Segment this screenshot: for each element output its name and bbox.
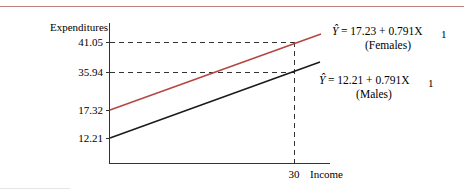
males-label: (Males) bbox=[356, 88, 392, 101]
y-tick-label: 41.05 bbox=[78, 36, 103, 48]
y-tick-label: 35.94 bbox=[78, 66, 103, 78]
females-eq: = 17.23 + 0.791X bbox=[341, 25, 423, 37]
males-line bbox=[110, 62, 320, 138]
y-tick-label: 17.32 bbox=[78, 104, 103, 116]
x-axis-title: Income bbox=[310, 168, 343, 180]
y-tick-label: 12.21 bbox=[78, 132, 103, 144]
x-tick-label: 30 bbox=[289, 168, 301, 180]
females-eq-hat: Ŷ bbox=[332, 24, 340, 37]
females-eq-subscript: 1 bbox=[441, 28, 447, 40]
regression-chart: Expenditures Income 41.05 35.94 17.32 12… bbox=[0, 0, 464, 192]
bottom-rule bbox=[0, 188, 70, 189]
males-eq-subscript: 1 bbox=[428, 77, 434, 89]
y-axis-title: Expenditures bbox=[50, 21, 108, 33]
females-label: (Females) bbox=[365, 39, 411, 52]
males-eq-hat: Ŷ bbox=[319, 73, 327, 86]
males-eq: = 12.21 + 0.791X bbox=[328, 74, 410, 86]
